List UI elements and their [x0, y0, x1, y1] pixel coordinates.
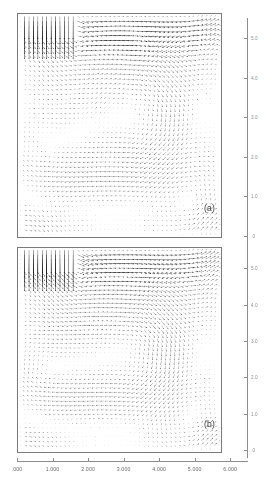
- y-tick-label: 5.0: [251, 266, 258, 271]
- y-tick: [244, 450, 248, 451]
- x-tick-label: .000: [12, 466, 23, 472]
- x-tick-label: 1.000: [46, 466, 60, 472]
- y-tick-label: 5.0: [251, 35, 258, 40]
- x-tick-label: 3.000: [117, 466, 131, 472]
- vector-field-panel-a: [17, 13, 222, 238]
- right-axis-line: [247, 18, 248, 458]
- y-tick-label: 4.0: [251, 302, 258, 307]
- y-tick: [244, 157, 248, 158]
- y-tick: [244, 196, 248, 197]
- x-tick: [195, 458, 196, 462]
- y-tick: [244, 305, 248, 306]
- y-tick: [244, 377, 248, 378]
- x-tick-label: 5.000: [188, 466, 202, 472]
- y-tick-label: 1.0: [251, 194, 258, 199]
- y-tick-label: 2.0: [251, 375, 258, 380]
- y-tick: [244, 78, 248, 79]
- x-tick: [124, 458, 125, 462]
- y-tick: [244, 268, 248, 269]
- x-tick-label: 2.000: [81, 466, 95, 472]
- y-tick-label: 2.0: [251, 154, 258, 159]
- y-tick: [244, 117, 248, 118]
- x-tick-label: 6.000: [223, 466, 237, 472]
- x-tick: [159, 458, 160, 462]
- y-tick-label: 3.0: [251, 338, 258, 343]
- x-tick: [88, 458, 89, 462]
- y-tick: [244, 236, 248, 237]
- panel-label-a: (a): [204, 203, 215, 213]
- vector-field-plot-b: [18, 248, 221, 452]
- figure-canvas: (a) (b) 5.04.03.02.01.0.0 5.04.03.02.01.…: [0, 0, 267, 485]
- y-tick: [244, 38, 248, 39]
- y-tick: [244, 341, 248, 342]
- vector-field-plot-a: [18, 14, 221, 237]
- x-tick: [230, 458, 231, 462]
- x-tick: [17, 458, 18, 462]
- y-tick-label: .0: [251, 234, 255, 239]
- y-tick-label: 4.0: [251, 75, 258, 80]
- x-tick-label: 4.000: [152, 466, 166, 472]
- y-tick-label: 1.0: [251, 411, 258, 416]
- y-tick-label: 3.0: [251, 115, 258, 120]
- y-tick-label: .0: [251, 448, 255, 453]
- vector-field-panel-b: [17, 247, 222, 453]
- y-tick: [244, 414, 248, 415]
- panel-label-b: (b): [204, 419, 215, 429]
- x-tick: [53, 458, 54, 462]
